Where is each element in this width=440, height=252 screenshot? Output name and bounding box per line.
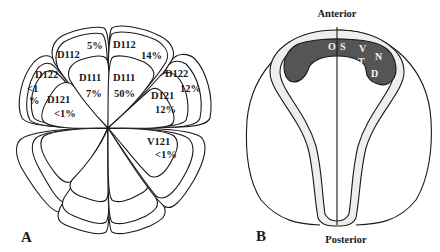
panel-label-b: B — [256, 228, 266, 244]
figure-canvas: D112 5% D112 14% D111 7% D111 50% D122 <… — [0, 0, 440, 252]
panel-label-a: A — [21, 229, 32, 245]
region-letter-t: T — [358, 56, 365, 67]
label-posterior: Posterior — [325, 234, 367, 245]
label-d121-left-value: <1% — [54, 108, 76, 119]
label-d122-right-name: D122 — [165, 68, 188, 79]
label-v121-name: V121 — [147, 136, 170, 147]
label-d122-right-value: 12% — [180, 83, 201, 94]
label-d122-left-value-line2: % — [29, 95, 40, 106]
label-d121-right-value: 12% — [155, 104, 176, 115]
label-d122-left-value-line1: <1 — [27, 83, 38, 94]
label-d112-right-name: D112 — [113, 39, 136, 50]
panel-b-diagram: Anterior O S V N T D B Posterior — [246, 8, 431, 245]
label-d112-left-name: D112 — [57, 49, 80, 60]
region-letter-o: O — [328, 41, 336, 52]
label-d111-right-name: D111 — [113, 72, 135, 83]
label-d112-left-value: 5% — [87, 40, 103, 51]
label-d111-left-value: 7% — [86, 88, 102, 99]
label-anterior: Anterior — [317, 8, 356, 19]
region-letter-n: N — [375, 51, 383, 62]
label-d111-left-name: D111 — [79, 72, 101, 83]
label-d121-right-name: D121 — [151, 90, 174, 101]
panel-a-diagram: D112 5% D112 14% D111 7% D111 50% D122 <… — [17, 26, 212, 245]
region-letter-s: S — [340, 41, 346, 52]
region-letter-v: V — [359, 43, 367, 54]
label-d111-right-value: 50% — [114, 88, 135, 99]
label-v121-value: <1% — [155, 149, 177, 160]
label-d121-left-name: D121 — [47, 94, 70, 105]
region-letter-d: D — [371, 68, 378, 79]
label-d112-right-value: 14% — [141, 50, 162, 61]
label-d122-left-name: D122 — [35, 69, 58, 80]
